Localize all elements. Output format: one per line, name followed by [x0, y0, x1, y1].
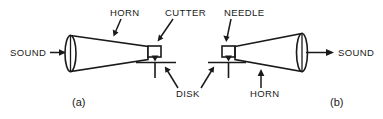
cutter-leader	[158, 19, 174, 42]
horn-top-leader	[113, 19, 121, 37]
needle-housing-b	[222, 46, 235, 57]
sound-left-label: SOUND	[10, 47, 46, 58]
horn-bottom-label: HORN	[250, 88, 280, 99]
panel-a-group: SOUND (a)	[10, 36, 176, 109]
horn-bottom-leader	[258, 69, 265, 88]
panel-b-group: SOUND (b)	[208, 34, 374, 109]
needle-leader	[223, 19, 231, 42]
needle-tip-triangle-down-icon	[225, 56, 232, 62]
cutter-label: CUTTER	[165, 7, 206, 18]
panel-b-caption: (b)	[330, 96, 343, 108]
disk-leader-left	[165, 67, 178, 89]
disk-label: DISK	[176, 88, 200, 99]
panel-a-caption: (a)	[72, 96, 85, 108]
cutter-tip-triangle-down-icon	[152, 56, 159, 62]
horn-b-body	[235, 34, 302, 72]
horn-a-body	[71, 36, 149, 72]
needle-label: NEEDLE	[224, 7, 264, 18]
disk-leader-right	[201, 67, 214, 89]
sound-right-label: SOUND	[338, 47, 374, 58]
horn-assembly-diagram: SOUND (a)	[0, 0, 383, 119]
arrow-out-icon	[306, 49, 334, 56]
figure-container: SOUND (a)	[0, 0, 383, 119]
horn-top-label: HORN	[110, 7, 140, 18]
cutter-housing-a	[148, 46, 161, 57]
arrow-in-icon	[50, 49, 66, 56]
